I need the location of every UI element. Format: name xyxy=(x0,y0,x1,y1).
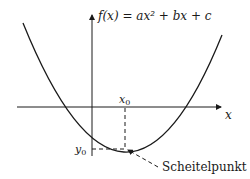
vertex-pointer xyxy=(128,150,158,167)
y0-subscript: 0 xyxy=(81,148,86,157)
x0-subscript: 0 xyxy=(125,98,130,107)
x0-label: x0 xyxy=(119,93,130,107)
x-axis-label: x xyxy=(225,108,232,122)
parabola-diagram: f(x) = ax² + bx + c x x0 y0 Scheitelpunk… xyxy=(0,0,250,179)
y0-label: y0 xyxy=(74,143,86,157)
parabola-curve xyxy=(23,23,222,152)
function-label: f(x) = ax² + bx + c xyxy=(97,9,212,23)
vertex-label: Scheitelpunkt xyxy=(162,160,247,174)
